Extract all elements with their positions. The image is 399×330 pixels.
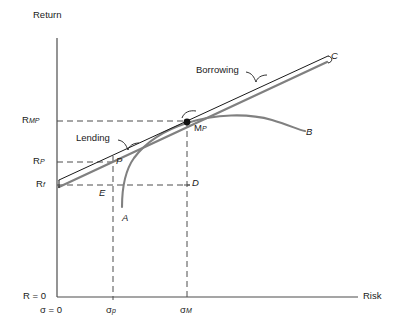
- x-axis-title: Risk: [363, 291, 381, 301]
- point-label-mp-sub: P: [202, 125, 207, 132]
- x-origin-label: σ = 0: [40, 305, 62, 315]
- point-label-a: A: [122, 213, 128, 223]
- point-label-mp: MP: [194, 123, 207, 133]
- point-label-b: B: [306, 127, 312, 137]
- efficient-frontier-curve: [122, 115, 305, 207]
- y-tick-rf-base: R: [36, 178, 43, 189]
- y-axis-title: Return: [33, 10, 62, 20]
- point-label-p: P: [116, 156, 122, 166]
- x-tick-sigma-m-sub: M: [186, 307, 192, 314]
- point-label-c: C: [331, 51, 338, 61]
- point-label-mp-base: M: [194, 122, 202, 133]
- x-tick-sigma-p: σp: [106, 305, 116, 315]
- y-tick-rp-sub: P: [40, 158, 45, 165]
- market-portfolio-marker: [184, 119, 191, 126]
- y-origin-label: R = 0: [23, 291, 46, 301]
- capital-market-line-figure: [0, 0, 399, 330]
- annotation-lending: Lending: [76, 133, 110, 143]
- y-tick-rp-base: R: [33, 155, 40, 166]
- chart-canvas: Return Risk RMP RP Rf R = 0 σ = 0 σp σM …: [0, 0, 399, 330]
- tangency-bracket: [182, 111, 196, 118]
- point-label-e: E: [99, 188, 105, 198]
- y-tick-rmp-base: R: [22, 114, 29, 125]
- annotation-borrowing: Borrowing: [196, 65, 239, 75]
- x-tick-sigma-m: σM: [180, 305, 192, 315]
- y-tick-rp: RP: [33, 156, 45, 166]
- x-tick-sigma-p-sub: p: [112, 307, 116, 314]
- y-tick-rf-sub: f: [43, 181, 45, 188]
- borrowing-leader: [246, 72, 267, 82]
- cml-thin-black: [59, 56, 328, 180]
- y-tick-rf: Rf: [36, 179, 45, 189]
- point-label-d: D: [192, 178, 199, 188]
- y-tick-rmp: RMP: [22, 115, 39, 125]
- y-tick-rmp-sub: MP: [29, 117, 40, 124]
